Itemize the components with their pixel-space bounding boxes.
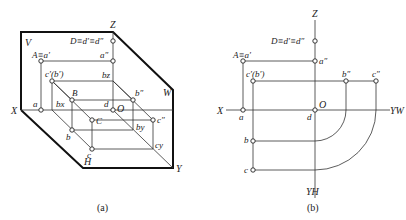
label-c-double-prime: c″	[157, 115, 165, 125]
caption-a: (a)	[97, 202, 108, 214]
label-d: d	[104, 99, 109, 109]
label-B: B	[72, 88, 78, 98]
label-b-double-prime: b″	[135, 88, 144, 98]
figure-a-pictorial: V W H Z X Y O D≡d′≡d″ A≡a′ a″ c′(b′) bz …	[10, 19, 183, 214]
label-bx: bx	[56, 99, 65, 109]
label-by: by	[136, 122, 145, 132]
projection-figure: V W H Z X Y O D≡d′≡d″ A≡a′ a″ c′(b′) bz …	[0, 0, 406, 220]
label-z-axis-b: Z	[312, 8, 318, 19]
figure-b-orthographic: Z X O YW YH D≡d′≡d″ A≡a′ a″ c′(b′) b″ c″…	[216, 8, 406, 214]
label-b-double-prime-b: b″	[342, 69, 351, 79]
label-a-double-prime: a″	[100, 50, 109, 60]
label-a: a	[33, 99, 38, 109]
label-bz: bz	[102, 70, 111, 80]
label-b: b	[66, 132, 71, 142]
label-b-b: b	[244, 135, 249, 145]
label-a-double-prime-b: a″	[319, 56, 328, 66]
label-y-axis: Y	[176, 163, 183, 174]
label-point-a-b: A≡a′	[232, 50, 252, 60]
label-point-d-b: D≡d′≡d″	[270, 36, 305, 46]
caption-b: (b)	[307, 202, 319, 214]
label-yw-axis: YW	[390, 105, 406, 116]
label-z-axis: Z	[110, 19, 116, 30]
label-x-axis-b: X	[216, 105, 224, 116]
label-d-b: d	[307, 112, 312, 122]
label-c-double-prime-b: c″	[372, 69, 380, 79]
label-origin: O	[117, 103, 124, 114]
label-origin-b: O	[319, 99, 326, 110]
label-yh-axis: YH	[306, 186, 320, 197]
label-point-a: A≡a′	[31, 50, 51, 60]
label-a-b: a	[239, 112, 244, 122]
label-x-axis: X	[10, 105, 18, 116]
label-v-plane: V	[25, 37, 33, 48]
label-c-b: c	[244, 165, 248, 175]
label-point-d: D≡d′≡d″	[69, 36, 104, 46]
label-cb-prime: c′(b′)	[45, 69, 63, 79]
label-cy: cy	[155, 140, 163, 150]
label-cb-prime-b: c′(b′)	[246, 69, 264, 79]
label-c: c	[87, 150, 91, 160]
label-C: C	[96, 116, 103, 126]
